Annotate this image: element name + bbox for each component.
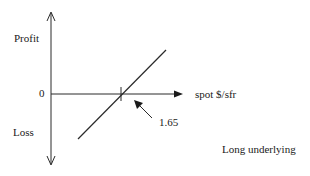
breakeven-pointer: [134, 100, 152, 118]
breakeven-value-label: 1.65: [159, 117, 178, 128]
loss-label: Loss: [13, 127, 34, 138]
origin-zero-label: 0: [39, 88, 45, 99]
x-axis-label: spot $/sfr: [195, 89, 236, 100]
diagram-caption: Long underlying: [222, 144, 296, 155]
profit-label: Profit: [14, 33, 39, 44]
x-axis: [51, 91, 183, 98]
y-axis: [47, 12, 55, 165]
right-arrow-icon: [174, 91, 183, 98]
